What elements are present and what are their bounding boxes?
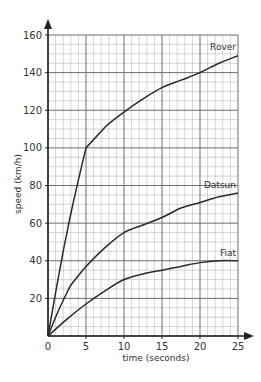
y-tick-label: 160 xyxy=(23,30,42,41)
series-labels: RoverDatsunFiat xyxy=(204,42,237,258)
curve-rover xyxy=(48,56,238,336)
y-tick-label: 140 xyxy=(23,67,42,78)
x-tick-label: 15 xyxy=(156,341,169,352)
x-tick-label: 10 xyxy=(118,341,131,352)
speed-time-chart: 0510152025 20406080100120140160 time (se… xyxy=(0,0,261,382)
x-tick-label: 5 xyxy=(83,341,89,352)
y-tick-label: 60 xyxy=(29,218,42,229)
y-axis-arrow-icon xyxy=(44,19,52,29)
x-tick-labels: 0510152025 xyxy=(45,336,245,352)
x-tick-label: 0 xyxy=(45,341,51,352)
y-tick-label: 80 xyxy=(29,180,42,191)
y-tick-label: 100 xyxy=(23,142,42,153)
x-axis-arrow-icon xyxy=(244,332,254,340)
series-label-datsun: Datsun xyxy=(204,180,236,190)
y-tick-labels: 20406080100120140160 xyxy=(23,30,48,304)
series-curves xyxy=(48,56,238,336)
series-label-rover: Rover xyxy=(210,42,236,52)
x-axis-title: time (seconds) xyxy=(122,353,189,363)
x-tick-label: 20 xyxy=(194,341,207,352)
y-axis-title: speed (km/h) xyxy=(13,154,23,214)
y-tick-label: 120 xyxy=(23,105,42,116)
y-tick-label: 20 xyxy=(29,293,42,304)
y-tick-label: 40 xyxy=(29,255,42,266)
x-tick-label: 25 xyxy=(232,341,245,352)
curve-datsun xyxy=(48,193,238,336)
series-label-fiat: Fiat xyxy=(220,248,237,258)
